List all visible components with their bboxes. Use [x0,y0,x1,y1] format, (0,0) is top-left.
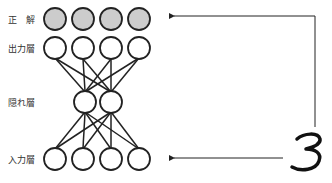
output-nodes [44,37,150,59]
input-node-4 [128,148,150,170]
feedback-arrows [174,16,315,158]
hidden-node-1 [74,91,96,113]
output-node-4 [128,37,150,59]
arrow-to-correct [174,16,315,127]
neural-network-diagram: 正 解 出力層 隠れ層 入力層 [0,0,332,183]
digit-three-handwritten [292,134,320,170]
input-nodes [44,148,150,170]
connections [55,58,139,149]
correct-node-4 [128,8,150,30]
correct-node-1 [44,8,66,30]
correct-nodes [44,8,150,30]
output-node-1 [44,37,66,59]
input-node-2 [72,148,94,170]
input-node-3 [100,148,122,170]
output-node-3 [100,37,122,59]
input-node-1 [44,148,66,170]
correct-node-2 [72,8,94,30]
output-node-2 [72,37,94,59]
network-graph [0,0,332,183]
correct-node-3 [100,8,122,30]
hidden-nodes [74,91,122,113]
hidden-node-2 [100,91,122,113]
